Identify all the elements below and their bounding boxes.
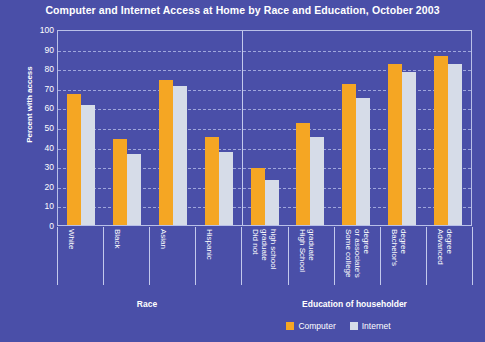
y-axis-tick: 20 <box>24 183 54 191</box>
y-axis-tick: 40 <box>24 144 54 152</box>
x-axis-tick: High School <box>297 229 306 272</box>
y-axis-tick: 80 <box>24 65 54 73</box>
x-axis-separator <box>426 227 427 285</box>
x-axis-separator <box>472 227 473 285</box>
x-axis-tick: White <box>66 229 75 249</box>
bar-internet <box>310 137 324 225</box>
bar-series-group <box>58 31 471 225</box>
x-axis-separator <box>149 227 150 285</box>
bar-group <box>150 31 196 225</box>
bar-group <box>242 31 288 225</box>
x-axis-tick-labels: WhiteBlackAsianHispanicDid notgraduatehi… <box>57 227 472 299</box>
x-axis-label-slot: White <box>57 227 103 299</box>
y-axis-tick: 60 <box>24 104 54 112</box>
bar-group <box>58 31 104 225</box>
x-axis-separator <box>288 227 289 285</box>
bar-internet <box>265 180 279 225</box>
bar-group <box>333 31 379 225</box>
legend-label: Computer <box>298 321 335 331</box>
bar-internet <box>356 98 370 225</box>
bar-internet <box>402 72 416 225</box>
bar-internet <box>448 64 462 225</box>
x-axis-tick: Bachelor's <box>389 229 398 266</box>
x-axis-tick: Advanced <box>435 229 444 265</box>
legend-item-computer[interactable]: Computer <box>286 321 335 331</box>
legend-swatch-computer <box>286 322 294 330</box>
bar-computer <box>388 64 402 225</box>
y-axis-tick: 30 <box>24 163 54 171</box>
legend-swatch-internet <box>350 322 358 330</box>
legend-label: Internet <box>362 321 391 331</box>
x-axis-label-slot: High Schoolgraduate <box>288 227 334 299</box>
bar-group <box>379 31 425 225</box>
bar-computer <box>113 139 127 225</box>
x-axis-label-slot: Some collegeor associate'sdegree <box>334 227 380 299</box>
y-axis-tick-labels: 1009080706050403020100 <box>24 26 54 226</box>
chart-container: Computer and Internet Access at Home by … <box>0 0 485 342</box>
bar-computer <box>296 123 310 225</box>
bar-computer <box>342 84 356 225</box>
x-axis-separator <box>195 227 196 285</box>
bar-computer <box>251 168 265 225</box>
x-axis-tick: degree <box>398 229 407 254</box>
x-axis-label-slot: Advanceddegree <box>426 227 472 299</box>
y-axis-tick: 0 <box>24 222 54 230</box>
bar-internet <box>173 86 187 225</box>
x-axis-separator <box>241 227 242 285</box>
x-axis-label-slot: Bachelor'sdegree <box>380 227 426 299</box>
x-axis-tick: Some college <box>343 229 352 277</box>
y-axis-tick: 90 <box>24 46 54 54</box>
x-axis-label-slot: Asian <box>149 227 195 299</box>
x-axis-separator <box>103 227 104 285</box>
x-axis-tick: Black <box>113 229 122 249</box>
x-axis-tick: high school <box>269 229 278 269</box>
bar-computer <box>159 80 173 225</box>
x-axis-tick: or associate's <box>352 229 361 278</box>
x-axis-tick: Asian <box>159 229 168 249</box>
bar-internet <box>219 152 233 225</box>
x-axis-label-slot: Hispanic <box>195 227 241 299</box>
x-axis-tick: degree <box>361 229 370 254</box>
bar-group <box>287 31 333 225</box>
group-label-race: Race <box>57 299 237 309</box>
bar-internet <box>127 154 141 225</box>
plot-area <box>57 30 472 226</box>
bar-group <box>425 31 471 225</box>
x-axis-label-slot: Black <box>103 227 149 299</box>
x-axis-separator <box>380 227 381 285</box>
chart-legend: ComputerInternet <box>0 321 477 331</box>
x-axis-tick: graduate <box>306 229 315 261</box>
x-axis-tick: graduate <box>260 229 269 261</box>
bar-computer <box>205 137 219 225</box>
bar-group <box>104 31 150 225</box>
y-axis-tick: 100 <box>24 26 54 34</box>
group-label-education: Education of householder <box>237 299 472 309</box>
y-axis-tick: 70 <box>24 85 54 93</box>
chart-title: Computer and Internet Access at Home by … <box>0 4 485 16</box>
x-axis-tick: Hispanic <box>205 229 214 260</box>
x-axis-tick: degree <box>444 229 453 254</box>
legend-item-internet[interactable]: Internet <box>350 321 391 331</box>
bar-internet <box>81 105 95 225</box>
bar-computer <box>67 94 81 225</box>
x-axis-label-slot: Did notgraduatehigh school <box>241 227 287 299</box>
y-axis-tick: 50 <box>24 124 54 132</box>
x-axis-separator <box>57 227 58 285</box>
x-axis-tick: Did not <box>251 229 260 254</box>
y-axis-tick: 10 <box>24 202 54 210</box>
bar-computer <box>434 56 448 225</box>
bar-group <box>196 31 242 225</box>
x-axis-separator <box>334 227 335 285</box>
